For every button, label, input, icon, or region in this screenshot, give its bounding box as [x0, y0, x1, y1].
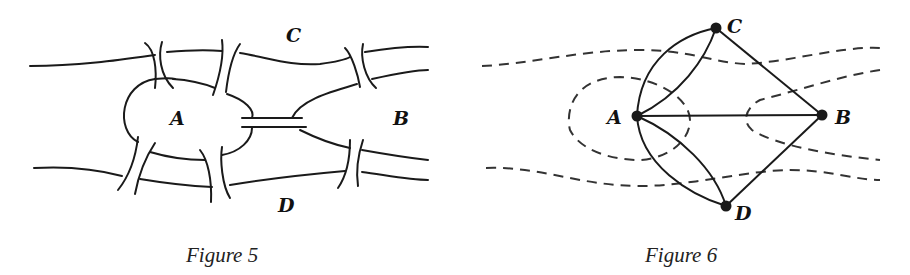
graph-node-d — [721, 201, 732, 212]
figure6-label-a: A — [605, 106, 622, 128]
figure6-label-c: C — [727, 15, 742, 37]
graph-node-a — [632, 111, 643, 122]
figures-canvas: A B C D Figure 5 A B C D Figure 6 — [0, 0, 910, 275]
figure6-caption: Figure 6 — [644, 243, 718, 267]
figure5-label-c: C — [286, 24, 301, 46]
graph-node-b — [817, 110, 828, 121]
figure5-caption: Figure 5 — [185, 243, 258, 267]
figure5-label-a: A — [168, 107, 185, 129]
figure5-label-d: D — [277, 194, 295, 216]
figure-6-graph-edges — [637, 28, 822, 206]
figure5-label-b: B — [392, 107, 409, 129]
figure6-label-d: D — [734, 202, 752, 224]
figure-5-river-map — [30, 40, 428, 202]
figure6-label-b: B — [834, 106, 851, 128]
graph-node-c — [711, 23, 722, 34]
